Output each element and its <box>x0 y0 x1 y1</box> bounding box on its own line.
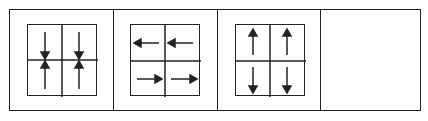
arrows-horizontal-opposed-icon <box>131 25 201 97</box>
panel-3 <box>218 10 321 110</box>
panel-4-empty <box>321 10 420 110</box>
grid-panel-1 <box>27 24 97 96</box>
grid-panel-2 <box>130 24 200 96</box>
grid-panel-3 <box>235 24 305 96</box>
panel-1 <box>10 10 114 110</box>
arrows-diverging-vertical-icon <box>236 25 306 97</box>
panel-2 <box>114 10 218 110</box>
arrows-converging-vertical-icon <box>28 25 98 97</box>
figure-strip <box>9 9 421 111</box>
